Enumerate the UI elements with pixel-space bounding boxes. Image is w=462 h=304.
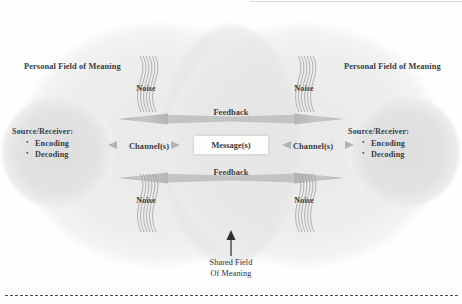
source-receiver-heading-right: Source/Receiver:: [348, 127, 452, 138]
shared-field-caption-line2: Of Meaning: [171, 269, 291, 280]
personal-field-label-left-line2: of Meaning: [79, 62, 121, 71]
shared-field-caption: Shared Field Of Meaning: [171, 258, 291, 279]
personal-field-label-right-line2: of Meaning: [399, 62, 441, 71]
source-receiver-heading-left: Source/Receiver:: [12, 127, 116, 138]
bottom-dotted-rule: [4, 294, 458, 297]
noise-label-bottom-right: Noise: [282, 196, 326, 207]
source-receiver-item-decoding-left: Decoding: [26, 150, 116, 161]
feedback-label-top: Feedback: [196, 108, 266, 119]
diagram-page: Personal Field of Meaning Personal Field…: [0, 0, 462, 304]
source-receiver-block-left: Source/Receiver: Encoding Decoding: [12, 127, 116, 161]
personal-field-label-right-line1: Personal Field: [344, 62, 397, 71]
shared-field-caption-line1: Shared Field: [171, 258, 291, 269]
channel-label-right: Channel(s): [282, 142, 344, 153]
message-label: Message(s): [211, 141, 250, 150]
feedback-label-bottom: Feedback: [196, 168, 266, 179]
source-receiver-list-right: Encoding Decoding: [348, 139, 452, 161]
noise-label-top-right: Noise: [282, 84, 326, 95]
message-box: Message(s): [194, 136, 268, 154]
personal-field-label-right: Personal Field of Meaning: [344, 62, 436, 73]
source-receiver-item-encoding-right: Encoding: [362, 139, 452, 150]
source-receiver-item-decoding-right: Decoding: [362, 150, 452, 161]
noise-label-bottom-left: Noise: [124, 196, 168, 207]
noise-label-top-left: Noise: [124, 84, 168, 95]
source-receiver-list-left: Encoding Decoding: [12, 139, 116, 161]
personal-field-label-left-line1: Personal Field: [24, 62, 77, 71]
personal-field-label-left: Personal Field of Meaning: [24, 62, 116, 73]
source-receiver-item-encoding-left: Encoding: [26, 139, 116, 150]
source-receiver-block-right: Source/Receiver: Encoding Decoding: [348, 127, 452, 161]
channel-label-left: Channel(s): [118, 142, 180, 153]
